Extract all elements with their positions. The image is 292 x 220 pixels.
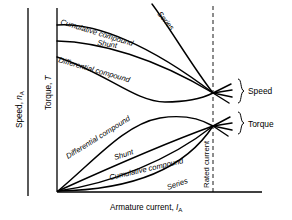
curve-torque-shunt <box>58 126 213 191</box>
speed-convergence-fan <box>213 84 232 103</box>
rated-current-label: Rated current <box>202 140 211 188</box>
label-torque-series: Series <box>166 176 189 192</box>
torque-convergence-fan <box>213 117 232 136</box>
y-axis-speed-main: Speed, <box>15 100 24 128</box>
speed-brace <box>238 79 244 103</box>
brace-label-torque: Torque <box>248 119 274 129</box>
y-axis-torque-label: Torque, T <box>44 74 53 110</box>
label-speed-shunt: Shunt <box>97 38 119 50</box>
y-axis-speed-label: Speed, nA <box>15 90 25 128</box>
y-axis-torque-symbol: T <box>44 74 53 80</box>
y-axis-torque-main: Torque, <box>44 80 53 110</box>
label-torque-shunt: Shunt <box>113 147 136 162</box>
chart-canvas: Cumulative compound Shunt Differential c… <box>0 0 292 220</box>
torque-brace <box>238 112 244 134</box>
x-axis-label-sub: A <box>178 206 183 213</box>
dc-motor-characteristics-figure: Cumulative compound Shunt Differential c… <box>0 0 292 220</box>
y-axis-speed-sub: A <box>18 90 25 95</box>
x-axis-label-main: Armature current, <box>110 203 176 212</box>
label-speed-series: Series <box>155 10 176 33</box>
x-axis-label: Armature current, IA <box>110 203 183 213</box>
brace-label-speed: Speed <box>248 86 273 96</box>
label-speed-differential-compound: Differential compound <box>57 55 131 84</box>
